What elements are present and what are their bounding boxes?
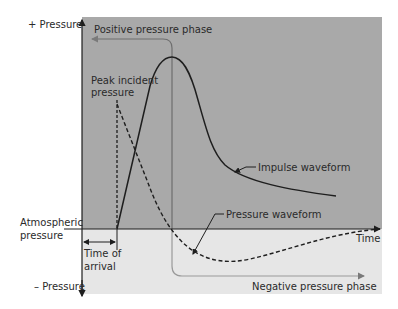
time-of-arrival-line2: arrival <box>84 261 116 272</box>
time-of-arrival-line1: Time of <box>83 248 122 259</box>
impulse-waveform-label: Impulse waveform <box>258 162 350 173</box>
pressure-waveform-label: Pressure waveform <box>226 209 322 220</box>
baseline-label-line2: pressure <box>20 230 63 241</box>
positive-pressure-region <box>82 17 382 229</box>
blast-pressure-diagram: + Pressure – Pressure – Pressure Atmosph… <box>0 0 398 309</box>
time-axis-label: Time <box>355 233 380 244</box>
y-positive-label: + Pressure <box>28 19 82 30</box>
negative-phase-label: Negative pressure phase <box>252 281 377 292</box>
peak-label-line2: pressure <box>91 87 134 98</box>
peak-label-line1: Peak incident <box>91 75 158 86</box>
baseline-label-line1: Atmospheric <box>20 217 83 228</box>
y-negative-label-text: – Pressure <box>34 281 85 292</box>
positive-phase-label: Positive pressure phase <box>94 24 212 35</box>
